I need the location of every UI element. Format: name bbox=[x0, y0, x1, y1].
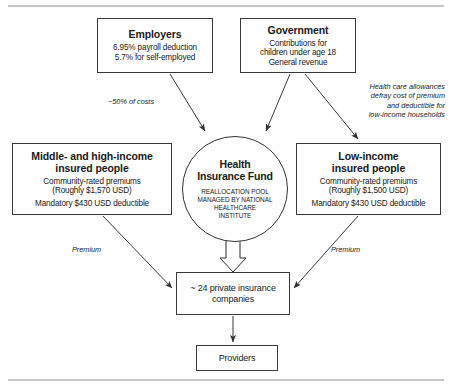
annotation-health-care-allowances: Health care allowances defray cost of pr… bbox=[300, 82, 445, 120]
node-low-income-title-line-2: insured people bbox=[332, 162, 405, 174]
annotation-allowance-line-4: low-income households bbox=[300, 110, 445, 119]
node-employers-line-1: 6.95% payroll deduction bbox=[113, 43, 197, 53]
annotation-allowance-line-3: and deductible for bbox=[300, 101, 445, 110]
diagram-canvas: Employers 6.95% payroll deduction 5.7% f… bbox=[0, 0, 452, 391]
edge-government-to-fund bbox=[266, 74, 290, 131]
node-employers-title: Employers bbox=[129, 28, 182, 40]
annotation-premium-left: Premium bbox=[72, 245, 101, 254]
node-employers-line-2: 5.7% for self-employed bbox=[115, 53, 195, 63]
node-middle-high-premium-line-2: (Roughly $1,570 USD) bbox=[52, 186, 131, 196]
node-fund-title-line-2: Insurance Fund bbox=[197, 170, 272, 183]
node-government-line-1: Contributions for bbox=[269, 39, 327, 49]
node-low-income-title-line-1: Low-income bbox=[338, 150, 398, 162]
node-employers[interactable]: Employers 6.95% payroll deduction 5.7% f… bbox=[97, 18, 213, 73]
node-fund-subtitle-line-2: MANAGED BY NATIONAL bbox=[198, 196, 273, 204]
node-providers[interactable]: Providers bbox=[196, 345, 278, 371]
node-health-insurance-fund[interactable]: Health Insurance Fund REALLOCATION POOL … bbox=[182, 136, 288, 242]
node-fund-subtitle-line-3: HEALTHCARE bbox=[214, 204, 256, 212]
node-providers-label: Providers bbox=[219, 353, 256, 364]
node-middle-high-title-line-2: insured people bbox=[55, 162, 128, 174]
node-fund-title-line-1: Health bbox=[220, 158, 251, 171]
node-low-income-insured-people[interactable]: Low-income insured people Community-rate… bbox=[296, 143, 441, 215]
annotation-share-of-costs: ~50% of costs bbox=[108, 97, 154, 106]
node-low-income-deductible: Mandatory $430 USD deductible bbox=[312, 199, 426, 209]
node-private-insurance-companies[interactable]: ~ 24 private insurance companies bbox=[176, 272, 290, 315]
node-low-income-premium-line-1: Community-rated premiums bbox=[320, 177, 417, 187]
node-government-line-2: children under age 18 bbox=[260, 48, 336, 58]
node-low-income-premium-line-2: (Roughly $1,500 USD) bbox=[329, 186, 408, 196]
node-fund-subtitle-line-4: INSTITUTE bbox=[219, 212, 252, 220]
edge-middle-high-to-insurers bbox=[103, 216, 172, 288]
node-fund-subtitle-line-1: REALLOCATION POOL bbox=[201, 188, 269, 196]
node-middle-and-high-income-insured-people[interactable]: Middle- and high-income insured people C… bbox=[12, 143, 172, 215]
node-insurers-line-2: companies bbox=[212, 294, 254, 305]
edge-fund-to-insurers bbox=[220, 238, 246, 272]
annotation-allowance-line-1: Health care allowances bbox=[300, 82, 445, 91]
node-government[interactable]: Government Contributions for children un… bbox=[240, 18, 356, 73]
node-insurers-line-1: ~ 24 private insurance bbox=[190, 283, 276, 294]
node-government-title: Government bbox=[268, 24, 329, 36]
node-middle-high-premium-line-1: Community-rated premiums bbox=[43, 177, 140, 187]
annotation-premium-right: Premium bbox=[331, 245, 360, 254]
node-middle-high-title-line-1: Middle- and high-income bbox=[31, 150, 152, 162]
node-government-line-3: General revenue bbox=[269, 58, 328, 68]
annotation-allowance-line-2: defray cost of premium bbox=[300, 91, 445, 100]
node-middle-high-deductible: Mandatory $430 USD deductible bbox=[35, 199, 149, 209]
edge-employers-to-fund bbox=[170, 74, 205, 131]
